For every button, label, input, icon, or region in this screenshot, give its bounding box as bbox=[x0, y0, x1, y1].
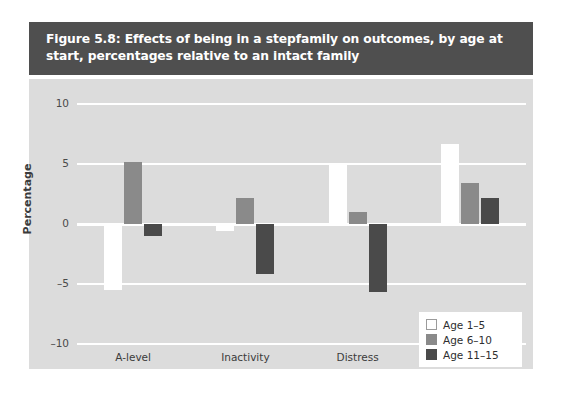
legend-item: Age 1–5 bbox=[426, 317, 516, 332]
bar bbox=[481, 198, 499, 224]
gridline bbox=[77, 283, 526, 285]
y-axis-tick-label: 10 bbox=[29, 97, 69, 109]
bar bbox=[369, 224, 387, 292]
bar bbox=[104, 224, 122, 290]
figure-title: Figure 5.8: Effects of being in a stepfa… bbox=[46, 31, 519, 65]
figure-container: Figure 5.8: Effects of being in a stepfa… bbox=[0, 0, 565, 396]
bar bbox=[329, 165, 347, 224]
plot-panel: Percentage 1050–5–10A-levelInactivityDis… bbox=[29, 79, 533, 369]
x-axis-tick-label: A-level bbox=[73, 351, 193, 363]
figure-title-band: Figure 5.8: Effects of being in a stepfa… bbox=[29, 22, 533, 75]
x-axis-tick-label: Inactivity bbox=[185, 351, 305, 363]
legend-label-age-1-5: Age 1–5 bbox=[443, 319, 485, 331]
legend-swatch-age-11-15 bbox=[426, 349, 437, 360]
bar bbox=[144, 224, 162, 236]
y-axis-tick-label: 0 bbox=[29, 217, 69, 229]
plot-area: 1050–5–10A-levelInactivityDistressEarly … bbox=[77, 104, 526, 344]
legend-swatch-age-6-10 bbox=[426, 334, 437, 345]
legend-item: Age 6–10 bbox=[426, 332, 516, 347]
bar bbox=[256, 224, 274, 274]
bar bbox=[441, 144, 459, 224]
bar bbox=[216, 224, 234, 231]
legend-label-age-11-15: Age 11–15 bbox=[443, 349, 499, 361]
legend-label-age-6-10: Age 6–10 bbox=[443, 334, 492, 346]
y-axis-tick-label: 5 bbox=[29, 157, 69, 169]
bar bbox=[236, 198, 254, 224]
legend-item: Age 11–15 bbox=[426, 347, 516, 362]
gridline bbox=[77, 103, 526, 105]
bar bbox=[349, 212, 367, 224]
bar bbox=[461, 183, 479, 224]
y-axis-tick-label: –10 bbox=[29, 337, 69, 349]
x-axis-tick-label: Distress bbox=[298, 351, 418, 363]
bar bbox=[124, 162, 142, 224]
y-axis-tick-label: –5 bbox=[29, 277, 69, 289]
legend-swatch-age-1-5 bbox=[426, 319, 437, 330]
chart-legend: Age 1–5 Age 6–10 Age 11–15 bbox=[419, 312, 522, 367]
